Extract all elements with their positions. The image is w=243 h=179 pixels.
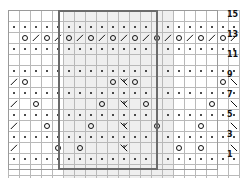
chart-cell-blank[interactable] — [97, 176, 108, 179]
chart-cell-purl[interactable] — [75, 110, 86, 121]
chart-cell-purl[interactable] — [20, 22, 31, 33]
chart-cell-blank[interactable] — [163, 77, 174, 88]
chart-cell-k2tog[interactable] — [9, 77, 20, 88]
chart-cell-blank[interactable] — [20, 55, 31, 66]
chart-cell-blank[interactable] — [75, 121, 86, 132]
chart-cell-blank[interactable] — [20, 143, 31, 154]
chart-cell-purl[interactable] — [97, 88, 108, 99]
chart-cell-blank[interactable] — [185, 121, 196, 132]
chart-cell-purl[interactable] — [185, 88, 196, 99]
chart-cell-yo[interactable] — [174, 33, 185, 44]
chart-cell-blank[interactable] — [20, 121, 31, 132]
chart-cell-purl[interactable] — [185, 132, 196, 143]
chart-cell-blank[interactable] — [108, 176, 119, 179]
chart-cell-blank[interactable] — [185, 55, 196, 66]
chart-cell-k2tog[interactable] — [9, 143, 20, 154]
chart-cell-blank[interactable] — [185, 143, 196, 154]
chart-cell-purl[interactable] — [207, 44, 218, 55]
chart-cell-purl[interactable] — [119, 154, 130, 165]
chart-cell-blank[interactable] — [152, 143, 163, 154]
chart-cell-purl[interactable] — [108, 22, 119, 33]
chart-cell-yo[interactable] — [64, 33, 75, 44]
chart-cell-blank[interactable] — [64, 165, 75, 176]
chart-cell-blank[interactable] — [53, 165, 64, 176]
chart-cell-blank[interactable] — [218, 121, 229, 132]
chart-cell-ssk[interactable] — [229, 99, 240, 110]
chart-cell-cdd[interactable] — [119, 143, 130, 154]
chart-cell-blank[interactable] — [53, 11, 64, 22]
chart-cell-blank[interactable] — [64, 176, 75, 179]
chart-cell-purl[interactable] — [196, 66, 207, 77]
chart-cell-purl[interactable] — [86, 132, 97, 143]
chart-cell-purl[interactable] — [207, 22, 218, 33]
chart-cell-blank[interactable] — [75, 55, 86, 66]
chart-cell-yo[interactable] — [108, 33, 119, 44]
chart-cell-blank[interactable] — [119, 55, 130, 66]
chart-cell-blank[interactable] — [218, 99, 229, 110]
chart-cell-blank[interactable] — [20, 11, 31, 22]
chart-cell-purl[interactable] — [64, 88, 75, 99]
chart-cell-blank[interactable] — [86, 55, 97, 66]
chart-cell-purl[interactable] — [53, 44, 64, 55]
chart-cell-purl[interactable] — [86, 44, 97, 55]
chart-cell-blank[interactable] — [9, 33, 20, 44]
chart-cell-purl[interactable] — [64, 22, 75, 33]
chart-cell-blank[interactable] — [141, 176, 152, 179]
chart-cell-blank[interactable] — [174, 176, 185, 179]
chart-cell-purl[interactable] — [163, 154, 174, 165]
chart-cell-purl[interactable] — [152, 132, 163, 143]
chart-cell-blank[interactable] — [75, 11, 86, 22]
chart-cell-blank[interactable] — [130, 143, 141, 154]
chart-cell-blank[interactable] — [163, 143, 174, 154]
chart-cell-purl[interactable] — [185, 154, 196, 165]
chart-cell-purl[interactable] — [152, 66, 163, 77]
chart-cell-purl[interactable] — [42, 154, 53, 165]
chart-cell-purl[interactable] — [163, 132, 174, 143]
chart-cell-purl[interactable] — [31, 132, 42, 143]
chart-cell-blank[interactable] — [75, 77, 86, 88]
chart-cell-blank[interactable] — [108, 99, 119, 110]
chart-cell-purl[interactable] — [119, 110, 130, 121]
chart-cell-k2tog[interactable] — [75, 33, 86, 44]
chart-cell-purl[interactable] — [207, 88, 218, 99]
chart-cell-blank[interactable] — [42, 176, 53, 179]
chart-cell-blank[interactable] — [152, 165, 163, 176]
chart-cell-ssk[interactable] — [229, 121, 240, 132]
chart-cell-purl[interactable] — [163, 22, 174, 33]
chart-cell-ssk[interactable] — [229, 77, 240, 88]
chart-cell-blank[interactable] — [141, 55, 152, 66]
chart-cell-blank[interactable] — [218, 143, 229, 154]
chart-cell-blank[interactable] — [141, 143, 152, 154]
chart-cell-blank[interactable] — [64, 143, 75, 154]
chart-cell-blank[interactable] — [207, 165, 218, 176]
chart-cell-purl[interactable] — [108, 154, 119, 165]
chart-cell-purl[interactable] — [20, 132, 31, 143]
chart-cell-purl[interactable] — [75, 88, 86, 99]
chart-cell-purl[interactable] — [196, 22, 207, 33]
chart-cell-blank[interactable] — [174, 165, 185, 176]
chart-cell-blank[interactable] — [229, 55, 240, 66]
chart-cell-purl[interactable] — [141, 154, 152, 165]
chart-cell-blank[interactable] — [75, 176, 86, 179]
chart-cell-purl[interactable] — [174, 110, 185, 121]
chart-cell-blank[interactable] — [42, 77, 53, 88]
chart-cell-purl[interactable] — [119, 132, 130, 143]
chart-cell-blank[interactable] — [130, 99, 141, 110]
chart-cell-blank[interactable] — [174, 55, 185, 66]
chart-cell-purl[interactable] — [218, 110, 229, 121]
chart-cell-purl[interactable] — [218, 88, 229, 99]
chart-cell-blank[interactable] — [163, 165, 174, 176]
chart-cell-blank[interactable] — [185, 77, 196, 88]
chart-cell-blank[interactable] — [97, 55, 108, 66]
chart-cell-purl[interactable] — [163, 44, 174, 55]
chart-cell-yo[interactable] — [130, 33, 141, 44]
chart-cell-purl[interactable] — [64, 132, 75, 143]
chart-cell-purl[interactable] — [75, 44, 86, 55]
chart-cell-purl[interactable] — [20, 110, 31, 121]
chart-cell-purl[interactable] — [185, 22, 196, 33]
chart-cell-purl[interactable] — [174, 44, 185, 55]
chart-cell-purl[interactable] — [42, 66, 53, 77]
chart-cell-blank[interactable] — [130, 121, 141, 132]
chart-cell-yo[interactable] — [53, 143, 64, 154]
chart-cell-purl[interactable] — [42, 88, 53, 99]
